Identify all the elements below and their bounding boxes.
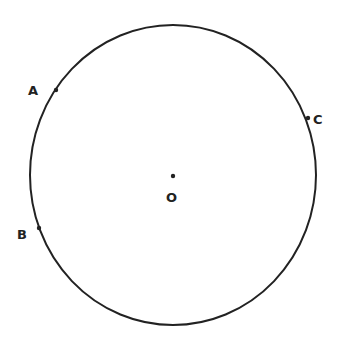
point-b	[37, 226, 41, 230]
diagram-canvas: O A B C	[0, 0, 344, 344]
point-c	[306, 116, 310, 120]
label-c: C	[313, 112, 323, 127]
center-point-o	[171, 174, 175, 178]
label-o: O	[166, 190, 177, 205]
label-b: B	[17, 227, 27, 242]
point-a	[54, 88, 58, 92]
label-a: A	[28, 83, 38, 98]
